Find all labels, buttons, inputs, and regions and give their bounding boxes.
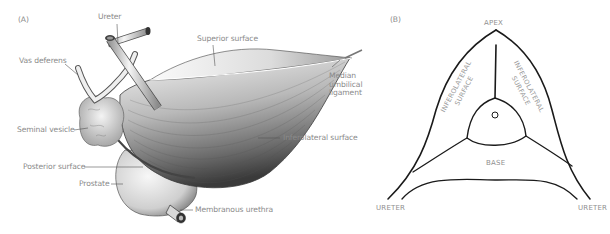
- seminal-vesicle-shape: [79, 96, 124, 146]
- label-ureter-left: URETER: [376, 204, 405, 212]
- label-superior-surface: Superior surface: [197, 35, 258, 44]
- outer-outline-left: [388, 30, 496, 199]
- vas-cut-end: [146, 27, 151, 35]
- label-base: BASE: [486, 159, 505, 167]
- base-curve: [402, 179, 577, 199]
- panel-b-tag: (B): [390, 16, 401, 25]
- panel-b-schematic-view: (B) APEX INFEROLATERAL SURFACE INFEROLAT…: [370, 0, 610, 234]
- label-inferolateral-surface: Inferolateral surface: [283, 134, 358, 143]
- label-ureter: Ureter: [98, 13, 121, 22]
- label-ligament: ligament: [329, 89, 362, 98]
- label-median-umbilical-ligament: Median umbilical ligament: [329, 72, 362, 98]
- urethral-orifice: [492, 112, 498, 118]
- left-lateral-ridge: [413, 138, 467, 172]
- label-vas-deferens: Vas deferens: [19, 57, 67, 66]
- median-umbilical-ligament: [345, 50, 362, 58]
- bladder-schematic: [370, 0, 610, 234]
- right-lateral-ridge: [526, 136, 572, 166]
- label-membranous-urethra: Membranous urethra: [195, 206, 273, 215]
- outer-outline-right: [496, 30, 590, 199]
- apex-ridge: [495, 45, 496, 98]
- panel-a-lateral-view: (A) Ureter Superior surface Vas deferens…: [0, 0, 370, 234]
- label-posterior-surface: Posterior surface: [23, 163, 85, 172]
- bladder-illustration: [0, 0, 370, 234]
- label-apex: APEX: [484, 19, 503, 27]
- panel-a-tag: (A): [18, 16, 29, 25]
- label-seminal-vesicle: Seminal vesicle: [17, 126, 75, 135]
- label-prostate: Prostate: [79, 180, 109, 189]
- trigone-outline: [467, 98, 526, 145]
- label-ureter-right: URETER: [578, 204, 607, 212]
